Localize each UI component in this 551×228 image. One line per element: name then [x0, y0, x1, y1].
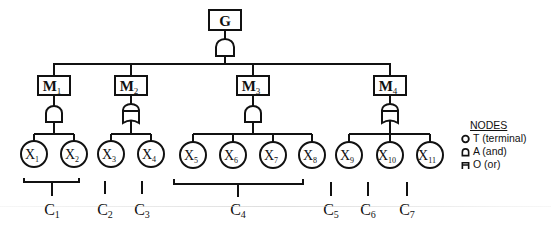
legend-item-terminal: T (terminal) [461, 132, 526, 145]
group-label-c5: C5 [323, 201, 339, 220]
or-gate-icon [461, 160, 470, 170]
group-label-c7: C7 [399, 201, 415, 220]
and-gate-icon [46, 106, 62, 122]
group-label-c6: C6 [360, 201, 376, 220]
group-label-c2: C2 [97, 201, 113, 220]
legend: NODES T (terminal) A (and) O (or) [461, 119, 526, 171]
group-label-c4: C4 [230, 201, 246, 220]
circle-icon [461, 134, 470, 144]
group-label-c3: C3 [134, 201, 150, 220]
or-gate-icon [123, 104, 139, 123]
legend-item-and: A (and) [461, 145, 526, 158]
group-label-c1: C1 [44, 201, 60, 220]
baseline-rule [0, 206, 551, 207]
and-gate-icon [216, 39, 234, 56]
group-bracket-c4 [174, 179, 303, 184]
or-gate-icon [382, 104, 398, 123]
group-bracket-c1 [24, 178, 79, 182]
and-gate-icon [245, 106, 261, 122]
fault-tree-diagram: G M1 M2 M3 M4 X1 X2 X3 X4 X5 X6 X7 X8 X9… [0, 0, 551, 228]
legend-item-or: O (or) [461, 158, 526, 171]
root-node-label: G [219, 13, 231, 29]
legend-title: NODES [470, 119, 526, 132]
and-gate-icon [461, 147, 470, 157]
